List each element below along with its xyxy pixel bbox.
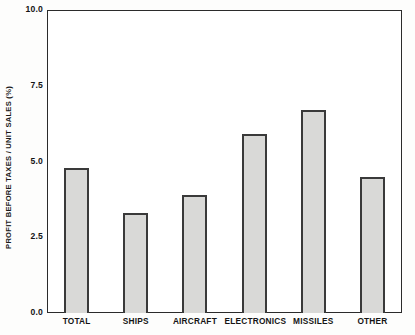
y-axis-tick-label: 10.0 [13,4,43,14]
x-axis-category-label: ELECTRONICS [225,316,284,326]
x-axis-category-label: OTHER [343,316,402,326]
x-axis-category-label: MISSILES [284,316,343,326]
y-axis-tick-labels: 0.02.55.07.510.0 [12,0,43,335]
x-axis-category-label: TOTAL [47,316,106,326]
y-axis-tick-label: 5.0 [13,156,43,166]
bar [360,177,385,313]
bar-chart: PROFIT BEFORE TAXES / UNIT SALES (%) 0.0… [0,0,415,335]
x-axis-category-label: AIRCRAFT [165,316,224,326]
bar [301,110,326,313]
bar [182,195,207,313]
bar [64,168,89,313]
y-axis-tick-label: 0.0 [13,307,43,317]
y-axis-tick-label: 2.5 [13,231,43,241]
bars-layer [47,10,402,313]
y-axis-tick-label: 7.5 [13,80,43,90]
bar [242,134,267,313]
bar [123,213,148,313]
x-axis-category-label: SHIPS [106,316,165,326]
x-axis-category-labels: TOTALSHIPSAIRCRAFTELECTRONICSMISSILESOTH… [47,316,402,334]
